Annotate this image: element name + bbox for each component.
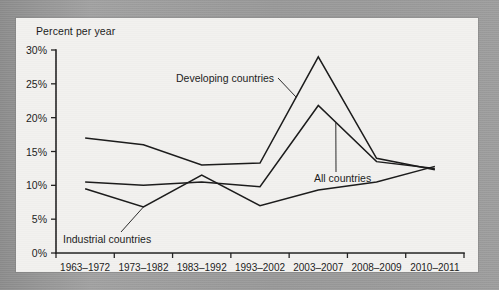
line-chart: 0%5%10%15%20%25%30% 1963–19721973–198219… — [16, 18, 478, 272]
annotation-industrial-label: Industrial countries — [63, 233, 151, 245]
y-tick-label: 10% — [26, 179, 47, 191]
x-axis-labels: 1963–19721973–19821983–19921993–20022003… — [60, 262, 460, 272]
annotation-industrial: Industrial countries — [63, 207, 151, 245]
x-tick-label: 2008–2009 — [352, 262, 402, 272]
x-tick-label: 1963–1972 — [60, 262, 110, 272]
y-tick-label: 20% — [26, 112, 47, 124]
annotation-all-label: All countries — [314, 172, 371, 184]
y-tick-label: 30% — [26, 44, 47, 56]
x-tick-label: 2003–2007 — [293, 262, 343, 272]
y-tick-label: 5% — [32, 213, 47, 225]
series-line-all-countries — [85, 105, 435, 186]
x-tick-label: 1993–2002 — [235, 262, 285, 272]
annotation-industrial-leader-line — [121, 207, 143, 232]
x-tick-label: 1973–1982 — [118, 262, 168, 272]
x-tick-label: 1983–1992 — [177, 262, 227, 272]
annotation-developing-leader-line — [278, 78, 296, 97]
y-tick-label: 15% — [26, 146, 47, 158]
y-tick-label: 25% — [26, 78, 47, 90]
annotation-developing-label: Developing countries — [176, 72, 274, 84]
x-tick-label: 2010–2011 — [410, 262, 460, 272]
y-tick-label: 0% — [32, 247, 47, 259]
annotation-all: All countries — [314, 122, 371, 184]
figure-panel: Percent per year 0%5%10%15%20%25%30% 196… — [16, 18, 478, 272]
annotation-developing: Developing countries — [176, 72, 296, 97]
y-axis-ticks: 0%5%10%15%20%25%30% — [26, 44, 56, 259]
